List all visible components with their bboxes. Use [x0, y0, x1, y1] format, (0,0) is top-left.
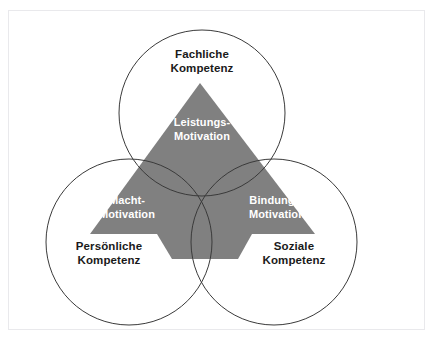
- label-soziale-kompetenz-line2: Kompetenz: [204, 253, 384, 267]
- label-persoenliche-kompetenz-line1: Persönliche: [19, 239, 199, 253]
- label-macht-motivation-line2: Motivation: [62, 208, 192, 222]
- label-soziale-kompetenz-line1: Soziale: [204, 239, 384, 253]
- label-fachliche-kompetenz-line1: Fachliche: [0, 47, 404, 61]
- label-persoenliche-kompetenz: Persönliche Kompetenz: [19, 239, 199, 267]
- label-macht-motivation-line1: Macht-: [62, 194, 192, 208]
- label-fachliche-kompetenz: Fachliche Kompetenz: [0, 47, 404, 75]
- label-bindungs-motivation: Bindungs- Motivation: [207, 194, 347, 221]
- label-bindungs-motivation-line2: Motivation: [207, 208, 347, 222]
- label-leistungs-motivation-line1: Leistungs-: [122, 116, 282, 130]
- label-fachliche-kompetenz-line2: Kompetenz: [0, 61, 404, 75]
- label-macht-motivation: Macht- Motivation: [62, 194, 192, 221]
- diagram-root: Fachliche Kompetenz Persönliche Kompeten…: [0, 0, 434, 343]
- label-persoenliche-kompetenz-line2: Kompetenz: [19, 253, 199, 267]
- label-soziale-kompetenz: Soziale Kompetenz: [204, 239, 384, 267]
- label-bindungs-motivation-line1: Bindungs-: [207, 194, 347, 208]
- label-leistungs-motivation-line2: Motivation: [122, 130, 282, 144]
- label-leistungs-motivation: Leistungs- Motivation: [122, 116, 282, 143]
